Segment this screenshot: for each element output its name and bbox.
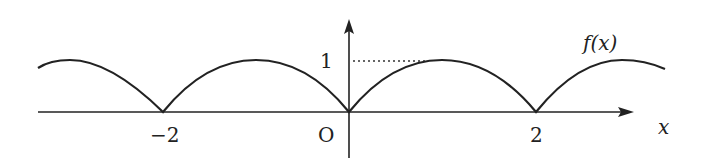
origin-label: O bbox=[318, 123, 334, 147]
y-tick-1: 1 bbox=[320, 49, 333, 73]
x-axis-label: x bbox=[658, 115, 669, 139]
x-tick-neg2: −2 bbox=[150, 123, 179, 147]
function-curve bbox=[38, 60, 665, 112]
function-graph: f(x) 1 −2 O 2 x bbox=[0, 0, 718, 167]
x-tick-2: 2 bbox=[530, 123, 543, 147]
function-label: f(x) bbox=[581, 31, 617, 55]
